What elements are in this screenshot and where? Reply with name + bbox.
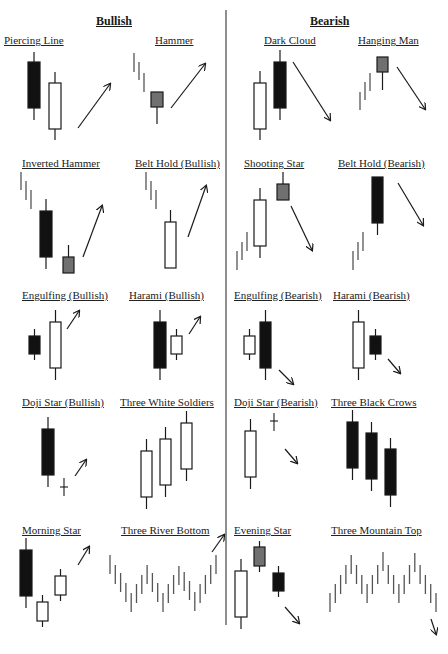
arrow-icon	[285, 449, 297, 463]
zigzag-three-mountain-top	[330, 552, 436, 612]
candle-shooting-star	[254, 188, 266, 258]
candle-hanging-man	[377, 57, 388, 90]
candle-engulfing-bullish	[29, 329, 40, 360]
candle-three-white-soldiers	[141, 439, 152, 509]
candle-dark-cloud	[254, 71, 266, 140]
arrow-icon	[397, 67, 425, 109]
arrow-icon	[78, 84, 110, 128]
price-bars	[21, 53, 436, 612]
candle-shooting-star	[277, 172, 289, 200]
candle-evening-star	[235, 559, 247, 629]
candle-harami-bearish	[353, 310, 364, 380]
candle-morning-star	[20, 538, 32, 608]
candle-belt-hold-bearish	[372, 177, 383, 235]
candle-evening-star	[273, 566, 284, 597]
arrow-icon	[75, 460, 86, 476]
arrow-icon	[291, 206, 312, 250]
arrow-icon	[83, 206, 102, 257]
arrow-icon	[388, 359, 400, 373]
candle-harami-bearish	[370, 329, 381, 360]
candle-three-white-soldiers	[160, 427, 171, 497]
arrow-icon	[398, 183, 423, 225]
candle-three-black-crows	[385, 438, 396, 507]
candle-inverted-hammer	[40, 199, 52, 269]
candle-harami-bullish	[171, 329, 182, 360]
arrow-icon	[431, 619, 436, 634]
candle-doji-star-bearish	[245, 419, 256, 489]
doji-doji-star-bearish	[270, 413, 278, 431]
doji-doji-star-bullish	[60, 478, 68, 496]
candle-engulfing-bearish	[244, 329, 255, 360]
arrow-icon	[78, 547, 89, 565]
candle-engulfing-bearish	[260, 310, 271, 380]
arrow-icon	[189, 317, 200, 334]
candles	[20, 50, 396, 629]
candle-doji-star-bullish	[42, 417, 54, 487]
candle-three-black-crows	[347, 410, 358, 480]
zigzag-three-river-bottom	[110, 555, 216, 612]
candle-evening-star	[254, 541, 265, 572]
candle-engulfing-bullish	[50, 310, 61, 380]
candle-morning-star	[55, 569, 66, 601]
arrow-icon	[171, 64, 205, 108]
candlestick-patterns-diagram: Bullish Bearish Piercing LineHammerDark …	[0, 0, 448, 654]
candle-hammer	[151, 92, 163, 124]
candle-three-white-soldiers	[181, 411, 192, 481]
candle-piercing-line	[28, 52, 40, 120]
arrow-icon	[279, 370, 293, 384]
arrow-icon	[212, 535, 224, 552]
arrow-icon	[67, 311, 79, 329]
arrow-icon	[188, 186, 206, 237]
candle-three-black-crows	[366, 422, 377, 491]
candle-piercing-line	[49, 72, 61, 140]
pattern-drawings	[0, 0, 448, 654]
arrow-icon	[285, 607, 299, 623]
candle-belt-hold-bullish	[165, 210, 176, 268]
candle-morning-star	[37, 595, 48, 627]
candle-dark-cloud	[274, 50, 286, 120]
arrow-icon	[293, 62, 330, 120]
candle-inverted-hammer	[63, 245, 74, 273]
candle-harami-bullish	[154, 310, 166, 380]
